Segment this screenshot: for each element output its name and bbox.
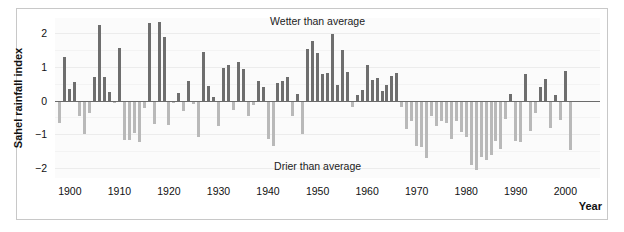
bar	[138, 101, 141, 143]
bar	[569, 101, 572, 151]
gridline	[55, 50, 600, 51]
bar	[281, 81, 284, 101]
bar	[63, 57, 66, 100]
bar	[405, 101, 408, 129]
x-tick-label: 1910	[108, 186, 131, 197]
x-tick-label: 1990	[504, 186, 527, 197]
bar	[336, 85, 339, 100]
sahel-rainfall-chart-figure: Sahel rainfall index Year Wetter than av…	[0, 0, 624, 232]
bar	[202, 52, 205, 101]
bar	[148, 23, 151, 101]
bar	[509, 94, 512, 101]
bar	[267, 101, 270, 140]
bar	[83, 101, 86, 135]
bar	[381, 91, 384, 100]
y-tick-label: −1	[0, 129, 47, 140]
chart-annotation: Drier than average	[274, 160, 361, 172]
bar	[232, 101, 235, 110]
bar	[118, 48, 121, 101]
bar	[158, 22, 161, 100]
bar	[68, 89, 71, 101]
bar	[480, 101, 483, 158]
bar	[321, 74, 324, 100]
bar	[276, 83, 279, 101]
bar	[128, 101, 131, 141]
bar	[395, 73, 398, 101]
bar	[371, 80, 374, 101]
bar	[559, 101, 562, 120]
bar	[247, 101, 250, 116]
bar	[440, 101, 443, 121]
chart-annotation: Wetter than average	[270, 15, 365, 27]
bar	[445, 101, 448, 124]
bar	[455, 101, 458, 121]
bar	[182, 101, 185, 111]
bar	[524, 74, 527, 100]
bar	[534, 101, 537, 114]
bar	[475, 101, 478, 170]
bar	[301, 101, 304, 135]
bar	[539, 87, 542, 100]
x-axis-label: Year	[579, 200, 602, 212]
bar	[222, 68, 225, 100]
bar	[262, 87, 265, 101]
gridline	[55, 151, 600, 152]
bar	[291, 101, 294, 116]
bar	[197, 101, 200, 137]
y-tick-label: −2	[0, 163, 47, 174]
bar	[430, 101, 433, 116]
bar	[306, 49, 309, 101]
bar	[361, 90, 364, 100]
bar	[78, 101, 81, 116]
x-tick-label: 1940	[256, 186, 279, 197]
bar	[311, 41, 314, 101]
bar	[326, 73, 329, 101]
bar	[272, 101, 275, 146]
bar	[143, 101, 146, 108]
y-tick-label: 1	[0, 62, 47, 73]
bar	[485, 101, 488, 161]
bar	[366, 65, 369, 100]
bar	[425, 101, 428, 158]
bar	[58, 101, 61, 123]
bar	[237, 62, 240, 101]
bar	[435, 101, 438, 126]
bar	[187, 81, 190, 100]
bar	[420, 101, 423, 147]
bar	[410, 101, 413, 122]
y-tick-label: 2	[0, 28, 47, 39]
x-tick-label: 1980	[455, 186, 478, 197]
x-tick-label: 1920	[157, 186, 180, 197]
bar	[177, 93, 180, 100]
gridline	[55, 33, 600, 34]
bar	[514, 101, 517, 141]
bar	[465, 101, 468, 137]
bar	[504, 101, 507, 120]
bar	[390, 76, 393, 101]
bar	[153, 101, 156, 125]
bar	[376, 78, 379, 100]
bar	[73, 82, 76, 100]
bar	[331, 34, 334, 101]
bar	[242, 69, 245, 101]
bar	[460, 101, 463, 132]
bar	[519, 101, 522, 142]
plot-area: Wetter than averageDrier than average	[55, 18, 600, 178]
bar	[490, 101, 493, 156]
bar	[98, 25, 101, 101]
x-tick-label: 1970	[405, 186, 428, 197]
bar	[341, 50, 344, 100]
bar	[385, 85, 388, 100]
bar	[93, 77, 96, 101]
bar	[167, 101, 170, 125]
bar	[207, 86, 210, 101]
x-tick-label: 1960	[355, 186, 378, 197]
x-tick-label: 2000	[554, 186, 577, 197]
bar	[564, 71, 567, 101]
bar	[470, 101, 473, 165]
bar	[544, 79, 547, 101]
x-tick-label: 1950	[306, 186, 329, 197]
bar	[103, 77, 106, 101]
gridline	[55, 67, 600, 68]
bar	[549, 101, 552, 129]
